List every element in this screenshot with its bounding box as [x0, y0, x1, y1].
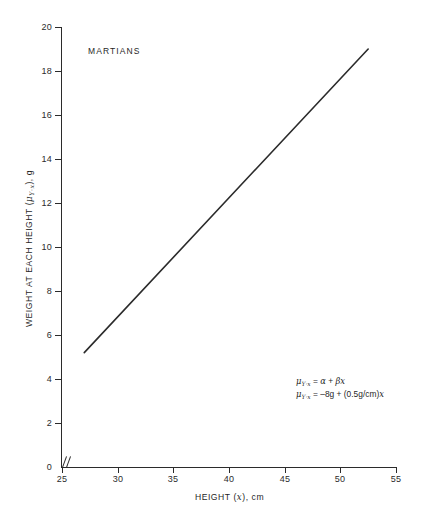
y-tick-2	[55, 423, 61, 424]
y-tick-20	[55, 27, 61, 28]
y-tick-12	[55, 203, 61, 204]
x-tick-label-25: 25	[51, 475, 73, 484]
equation-line-2: μY·x = –8g + (0.5g/cm)x	[296, 389, 384, 402]
y-axis-title-mu: μ	[24, 196, 34, 202]
y-tick-14	[55, 159, 61, 160]
x-tick-label-45: 45	[274, 475, 296, 484]
y-axis-line	[61, 27, 62, 468]
y-tick-8	[55, 291, 61, 292]
equation-2-subscript: Y·x	[301, 392, 310, 399]
equation-2-equals: =	[313, 389, 318, 399]
equation-1-plus: +	[328, 376, 333, 386]
y-tick-16	[55, 115, 61, 116]
x-tick-55	[396, 468, 397, 473]
y-tick-label-18: 18	[28, 67, 52, 76]
y-tick-18	[55, 71, 61, 72]
y-tick-label-2: 2	[28, 419, 52, 428]
y-tick-label-4: 4	[28, 375, 52, 384]
equation-1-subscript: Y·x	[301, 380, 310, 387]
y-axis-title-suffix: ), g	[24, 170, 34, 185]
x-tick-label-40: 40	[218, 475, 240, 484]
x-axis-title: HEIGHT (x), cm	[62, 492, 397, 502]
equation-1-equals: =	[313, 376, 318, 386]
x-tick-50	[340, 468, 341, 473]
y-tick-label-16: 16	[28, 111, 52, 120]
regression-line	[84, 49, 368, 353]
x-axis-title-prefix: HEIGHT (	[195, 492, 237, 502]
y-tick-10	[55, 247, 61, 248]
x-tick-label-50: 50	[329, 475, 351, 484]
y-tick-6	[55, 335, 61, 336]
x-tick-45	[285, 468, 286, 473]
x-tick-35	[173, 468, 174, 473]
chart-annotation-martians: MARTIANS	[88, 46, 141, 56]
x-tick-25	[62, 468, 63, 473]
regression-line-svg	[0, 0, 431, 526]
equation-2-slope: (0.5g/cm)	[344, 389, 379, 399]
y-axis-title: WEIGHT AT EACH HEIGHT (μY·x), g	[24, 149, 35, 349]
x-tick-label-35: 35	[162, 475, 184, 484]
chart-figure: MARTIANS 20 18 16 14 12 10 8 6 4 2 0 25 …	[0, 0, 431, 526]
x-tick-40	[229, 468, 230, 473]
equation-1-x: x	[340, 376, 345, 386]
equation-annotation: μY·x = α + βx μY·x = –8g + (0.5g/cm)x	[296, 376, 384, 401]
x-tick-30	[118, 468, 119, 473]
equation-2-plus: +	[337, 389, 342, 399]
equation-line-1: μY·x = α + βx	[296, 376, 384, 389]
x-tick-label-30: 30	[107, 475, 129, 484]
equation-2-intercept: –8g	[320, 389, 334, 399]
y-axis-title-prefix: WEIGHT AT EACH HEIGHT (	[24, 202, 34, 327]
y-tick-label-20: 20	[28, 23, 52, 32]
equation-1-alpha: α	[320, 376, 326, 386]
x-tick-label-55: 55	[385, 475, 407, 484]
y-tick-label-0: 0	[28, 463, 52, 472]
x-axis-title-suffix: ), cm	[242, 492, 264, 502]
equation-2-x: x	[379, 389, 384, 399]
y-axis-title-subscript: Y·x	[28, 185, 35, 196]
y-tick-4	[55, 379, 61, 380]
